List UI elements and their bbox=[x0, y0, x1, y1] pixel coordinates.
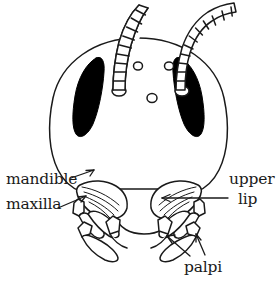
label-upper-lip-line1: upper bbox=[229, 170, 274, 189]
label-upper-lip-line2: lip bbox=[238, 190, 257, 209]
ocellus-center bbox=[147, 94, 157, 103]
insect-head-figure: mandible maxilla upper lip palpi bbox=[0, 0, 277, 288]
ocellus-right bbox=[165, 62, 174, 70]
leader-palpi-right bbox=[196, 234, 205, 255]
insect-head-illustration bbox=[0, 0, 277, 288]
label-palpi: palpi bbox=[184, 258, 222, 277]
label-maxilla: maxilla bbox=[6, 195, 61, 214]
label-mandible: mandible bbox=[6, 170, 77, 189]
ocellus-left bbox=[134, 62, 143, 70]
